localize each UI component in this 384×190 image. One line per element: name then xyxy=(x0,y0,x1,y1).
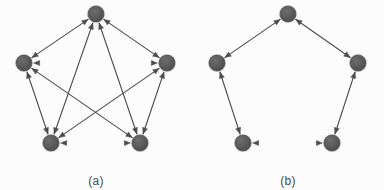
arrowhead-toward-a-bottom-left xyxy=(44,127,49,134)
arrowhead-toward-a-top xyxy=(88,23,93,30)
edge-a-top-to-a-right xyxy=(104,19,159,57)
node-a-top[interactable] xyxy=(87,5,105,23)
arrowhead-toward-b-top xyxy=(296,19,303,25)
arrowhead-toward-b-right xyxy=(351,72,356,79)
arrowhead-toward-b-bottom-right xyxy=(316,140,322,145)
arrowhead-toward-a-left xyxy=(27,72,32,79)
arrowhead-toward-b-bottom-right xyxy=(334,127,339,134)
arrowhead-toward-a-bottom-right xyxy=(143,127,148,134)
arrowhead-toward-b-right xyxy=(344,52,351,58)
arrowhead-toward-b-bottom-left xyxy=(253,140,259,145)
edge-a-top-to-a-bottom-right xyxy=(99,23,138,134)
arrowhead-toward-b-top xyxy=(274,19,281,25)
arrowhead-toward-a-bottom-left xyxy=(61,140,67,145)
arrowhead-toward-a-bottom-right xyxy=(132,127,137,134)
edge-a-right-to-a-bottom-right xyxy=(143,72,165,134)
arrowhead-toward-a-bottom-left xyxy=(59,132,66,138)
edge-a-bottom-right-to-a-left xyxy=(32,68,132,137)
node-b-bottom-left[interactable] xyxy=(234,134,252,152)
arrowhead-toward-a-right xyxy=(153,52,160,58)
arrowhead-toward-b-left xyxy=(225,52,232,58)
edge-b-bottom-right-to-b-bottom-left xyxy=(253,140,323,145)
arrowhead-toward-b-left xyxy=(219,72,224,79)
arrowhead-toward-a-bottom-left xyxy=(54,127,59,134)
panel-a-caption: (a) xyxy=(88,174,104,188)
edge-b-left-to-b-top xyxy=(225,19,280,57)
arrowhead-toward-a-right xyxy=(151,60,157,65)
nodes-layer xyxy=(15,5,367,152)
arrowhead-toward-a-bottom-right xyxy=(126,132,133,138)
arrowhead-toward-a-right xyxy=(153,68,160,74)
arrowhead-toward-a-top xyxy=(82,19,89,25)
graph-diagram-svg xyxy=(0,0,384,190)
edge-b-right-to-b-bottom-right xyxy=(334,72,355,134)
edge-b-bottom-left-to-b-left xyxy=(219,72,240,134)
arrowhead-toward-a-left xyxy=(32,68,39,74)
node-a-bottom-left[interactable] xyxy=(42,134,60,152)
arrowhead-toward-b-bottom-left xyxy=(236,127,241,134)
edge-b-top-to-b-right xyxy=(296,19,350,57)
node-a-right[interactable] xyxy=(158,54,176,72)
figure-canvas: (a) (b) xyxy=(0,0,384,190)
arrowhead-toward-a-left xyxy=(34,60,40,65)
arrowhead-toward-a-bottom-right xyxy=(124,140,130,145)
edge-a-right-to-a-left xyxy=(34,60,158,65)
arrowhead-toward-a-top xyxy=(99,23,104,30)
edge-a-bottom-right-to-a-bottom-left xyxy=(61,140,131,145)
arrowhead-toward-a-top xyxy=(104,19,111,25)
node-b-right[interactable] xyxy=(349,54,367,72)
edge-a-bottom-left-to-a-left xyxy=(27,72,49,134)
arrowhead-toward-a-left xyxy=(32,52,39,58)
arrowhead-toward-a-right xyxy=(160,72,165,79)
node-b-top[interactable] xyxy=(279,5,297,23)
node-b-left[interactable] xyxy=(208,54,226,72)
edges-layer xyxy=(27,19,356,145)
node-a-bottom-right[interactable] xyxy=(131,134,149,152)
panel-b-caption: (b) xyxy=(280,174,296,188)
node-b-bottom-right[interactable] xyxy=(323,134,341,152)
edge-a-left-to-a-top xyxy=(32,19,88,57)
node-a-left[interactable] xyxy=(15,54,33,72)
